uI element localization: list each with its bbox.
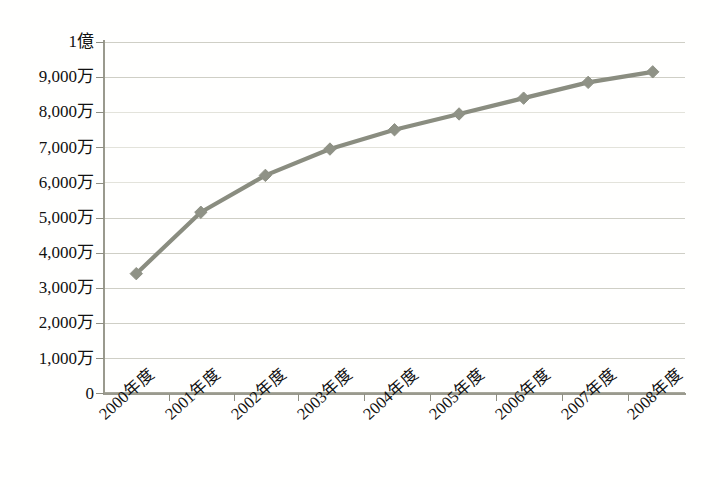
x-axis-tick-label: 2002年度 [228, 365, 290, 423]
x-axis-tick-label: 2001年度 [162, 365, 224, 423]
x-axis-tick-label: 2008年度 [624, 365, 686, 423]
x-axis-tick-label: 2003年度 [294, 365, 356, 423]
x-axis-tick-label: 2004年度 [360, 365, 422, 423]
x-axis-tick-label: 2006年度 [492, 365, 554, 423]
x-axis-tick-label: 2000年度 [96, 365, 158, 423]
figure-caption [0, 479, 719, 487]
x-axis-tick-label: 2005年度 [426, 365, 488, 423]
x-axis-labels: 2000年度 2001年度 2002年度 2003年度 2004年度 2005年… [0, 0, 719, 487]
x-axis-tick-label: 2007年度 [558, 365, 620, 423]
line-chart: 1億 9,000万 8,000万 7,000万 6,000万 5,000万 4,… [0, 0, 719, 487]
